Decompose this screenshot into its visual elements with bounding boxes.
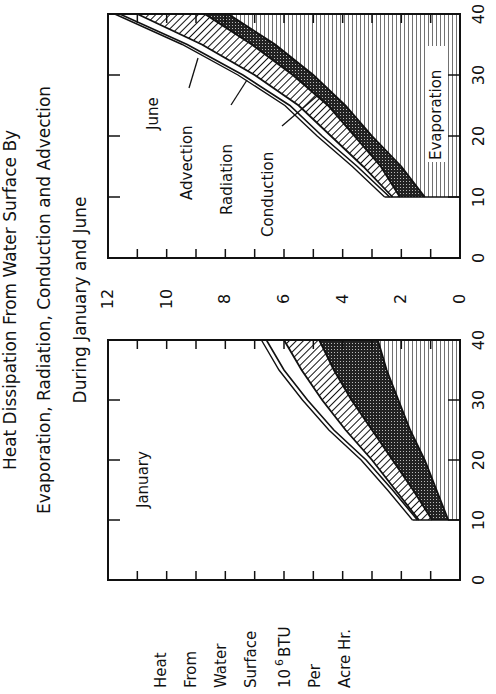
temp-tick-label: 30: [469, 65, 488, 85]
title-line-2: Evaporation, Radiation, Conduction and A…: [34, 86, 54, 514]
title: Heat Dissipation From Water Surface By E…: [0, 86, 90, 514]
ylabel-line: Acre Hr.: [336, 629, 354, 688]
title-line-1: Heat Dissipation From Water Surface By: [0, 130, 20, 470]
heat-tick-label: 4: [333, 294, 352, 304]
heat-tick-label: 10: [157, 289, 176, 309]
ylabel-unit: 10 6 BTU: [273, 627, 294, 688]
temp-tick-label: 20: [469, 126, 488, 146]
ylabel-line: Per: [306, 663, 324, 688]
figure: Heat Dissipation From Water Surface By E…: [0, 0, 496, 694]
ylabel-line: Water: [212, 643, 230, 688]
temp-tick-label: 40: [469, 4, 488, 24]
ylabel-line: Heat: [152, 652, 170, 688]
title-line-3: During January and June: [70, 197, 90, 404]
heat-tick-label: 8: [215, 294, 234, 304]
label-conduction: Conduction: [259, 152, 277, 237]
heat-tick-label: 2: [391, 294, 410, 304]
ylabel-line: Surface: [242, 631, 260, 688]
temp-tick-label: 30: [469, 390, 488, 410]
temp-tick-label: 10: [469, 187, 488, 207]
leader-advection: [189, 58, 198, 88]
ylabel-unit-base: 10: [276, 669, 294, 688]
temp-tick-label: 0: [469, 253, 488, 263]
label-evaporation: Evaporation: [427, 70, 445, 160]
leader-radiation: [231, 80, 247, 105]
label-june: June: [144, 97, 162, 131]
spacer: [0, 0, 1, 1]
label-radiation: Radiation: [218, 144, 236, 215]
label-january: January: [134, 451, 152, 509]
ylabel-unit-name: BTU: [276, 627, 294, 657]
temp-tick-label: 40: [469, 330, 488, 350]
label-advection: Advection: [178, 125, 196, 200]
heat-tick-label: 0: [450, 294, 469, 304]
spacer: [0, 0, 1, 1]
label-evaporation-wrap: Evaporation: [427, 46, 445, 162]
ylabel-unit-exp: 6: [273, 659, 286, 666]
heat-tick-label: 6: [274, 294, 293, 304]
temp-tick-label: 0: [469, 575, 488, 585]
heat-axis-tick-labels: 024681012: [98, 289, 469, 309]
temp-tick-label: 10: [469, 510, 488, 530]
temp-tick-label: 20: [469, 450, 488, 470]
y-axis-label: Heat From Water Surface 10 6 BTU Per Acr…: [152, 627, 354, 688]
ylabel-line: From: [182, 651, 200, 688]
heat-tick-label: 12: [98, 289, 117, 309]
